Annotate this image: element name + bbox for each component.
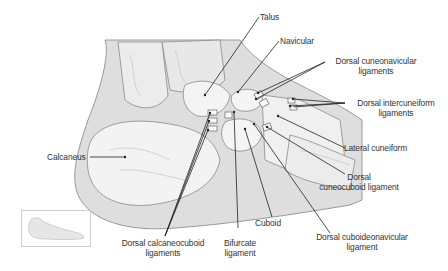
label-talus: Talus (260, 12, 279, 22)
label-dorsal-cuneonavicular-ligaments: Dorsal cuneonavicular ligaments (326, 56, 426, 76)
label-line-2: ligament (220, 248, 260, 258)
label-navicular: Navicular (280, 36, 314, 46)
foot-orientation-thumbnail (21, 210, 91, 247)
label-line-2: cuneocuboid ligament (314, 182, 404, 192)
label-lateral-cuneiform: Lateral cuneiform (344, 143, 407, 153)
label-line-1: Dorsal cuboideonavicular (312, 232, 412, 242)
label-line-1: Dorsal (314, 172, 404, 182)
label-line-1: Dorsal cuneonavicular (326, 56, 426, 66)
label-line-2: ligament (312, 242, 412, 252)
label-line-2: ligaments (326, 66, 426, 76)
label-bifurcate-ligament: Bifurcate ligament (220, 238, 260, 258)
label-cuboid: Cuboid (255, 218, 281, 228)
label-dorsal-cuneocuboid-ligament: Dorsal cuneocuboid ligament (314, 172, 404, 192)
label-dorsal-cuboideonavicular-ligament: Dorsal cuboideonavicular ligament (312, 232, 412, 252)
anatomy-diagram: Talus Navicular Dorsal cuneonavicular li… (0, 0, 448, 271)
label-calcaneus: Calcaneus (47, 152, 86, 162)
label-dorsal-calcaneocuboid-ligaments: Dorsal calcaneocuboid ligaments (118, 238, 208, 258)
label-line-1: Dorsal intercuneiform (346, 98, 446, 108)
label-line-2: ligaments (346, 108, 446, 118)
label-line-1: Dorsal calcaneocuboid (118, 238, 208, 248)
label-line-1: Bifurcate (220, 238, 260, 248)
label-dorsal-intercuneiform-ligaments: Dorsal intercuneiform ligaments (346, 98, 446, 118)
foot-thumbnail-icon (22, 211, 90, 246)
label-line-2: ligaments (118, 248, 208, 258)
